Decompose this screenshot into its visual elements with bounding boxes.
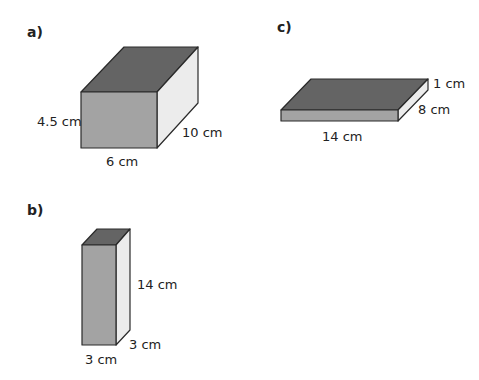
cuboid-c-front-face (281, 110, 398, 121)
cuboid-b-side-face (116, 229, 130, 345)
dimension-width-a: 6 cm (106, 155, 138, 168)
cuboid-b (82, 229, 130, 345)
part-label-a: a) (27, 25, 43, 39)
dimension-height-b: 14 cm (137, 278, 178, 291)
dimension-height-c: 1 cm (433, 77, 465, 90)
dimension-depth-c: 8 cm (418, 103, 450, 116)
dimension-depth-a: 10 cm (182, 126, 223, 139)
part-label-c: c) (277, 20, 292, 34)
cuboid-c (281, 79, 428, 121)
dimension-width-c: 14 cm (322, 130, 363, 143)
part-label-b: b) (27, 203, 43, 217)
dimension-width-b: 3 cm (85, 353, 117, 366)
dimension-depth-b: 3 cm (129, 338, 161, 351)
cuboid-diagrams (0, 0, 479, 380)
cuboid-a-front-face (81, 92, 157, 148)
cuboid-b-front-face (82, 245, 116, 345)
cuboid-a (81, 47, 198, 148)
dimension-height-a: 4.5 cm (37, 115, 82, 128)
